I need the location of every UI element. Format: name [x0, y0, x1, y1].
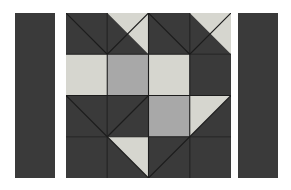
- left-sashing-strip-surface: [15, 13, 55, 178]
- quilt-cell-r4-c1-base: [66, 137, 107, 178]
- quilt-cell-r2-c3-base: [149, 54, 190, 95]
- quilt-cell-r2-c2-base: [107, 54, 148, 95]
- quilt-cell-r2-c4-base: [190, 54, 231, 95]
- right-sashing-strip: [238, 13, 278, 178]
- quilt-cell-r3-c3-base: [149, 96, 190, 137]
- quilt-cell-r2-c1-base: [66, 54, 107, 95]
- left-sashing-strip: [15, 13, 55, 178]
- right-strip-fabric: [238, 13, 278, 178]
- right-sashing-strip-surface: [238, 13, 278, 178]
- center-block-surface: [66, 13, 231, 178]
- center-block: [66, 13, 231, 178]
- left-strip-fabric: [15, 13, 55, 178]
- quilt-artwork-canvas: [0, 0, 291, 190]
- quilt-cell-r4-c4-base: [190, 137, 231, 178]
